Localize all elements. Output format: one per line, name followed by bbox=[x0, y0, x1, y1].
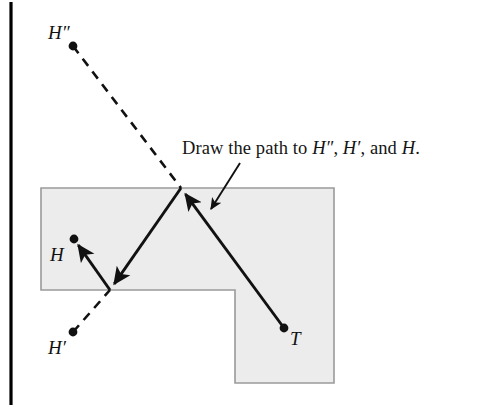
point-marker-h-prime bbox=[69, 328, 78, 337]
caption-suffix: . bbox=[415, 138, 420, 158]
caption-point-1: H″ bbox=[312, 138, 333, 158]
point-marker-h bbox=[70, 235, 79, 244]
point-label-h-double-prime: H″ bbox=[48, 23, 70, 42]
caption-separator-1: , bbox=[333, 138, 342, 158]
caption-point-2: H′ bbox=[343, 138, 361, 158]
point-marker-t bbox=[280, 324, 289, 333]
dashed-segment-h-double-prime bbox=[73, 46, 181, 188]
point-label-h-prime: H′ bbox=[48, 338, 66, 357]
point-label-t: T bbox=[290, 329, 301, 348]
figure-canvas bbox=[0, 0, 503, 407]
caption-separator-2: , and bbox=[360, 138, 401, 158]
caption-point-3: H bbox=[402, 138, 415, 158]
room-polygon bbox=[41, 188, 334, 383]
figure-caption: Draw the path to H″, H′, and H. bbox=[182, 138, 420, 158]
point-label-h: H bbox=[50, 245, 64, 264]
geometry-figure: H″ H H′ T Draw the path to H″, H′, and H… bbox=[0, 0, 503, 407]
caption-prefix: Draw the path to bbox=[182, 138, 312, 158]
dashed-segment-h-prime bbox=[73, 290, 110, 332]
